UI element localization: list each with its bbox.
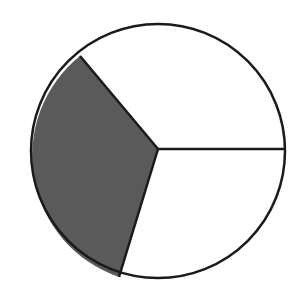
- shaded-sector: [32, 56, 158, 277]
- diagram-canvas: [0, 0, 300, 303]
- pie-diagram: [0, 0, 300, 303]
